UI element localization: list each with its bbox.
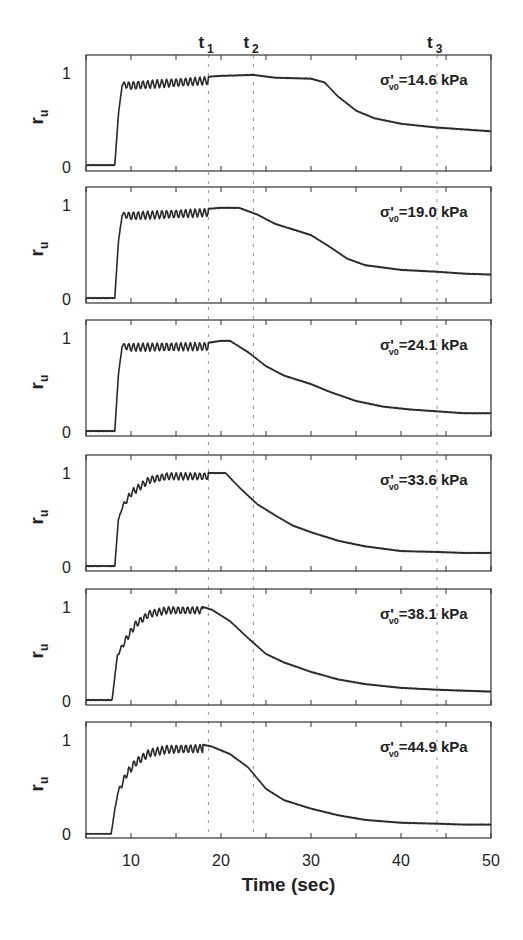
x-tick-label: 30 <box>302 852 320 869</box>
chart-svg: t1t2t3 10ruσ'v0=14.6 kPa10ruσ'v0=19.0 kP… <box>0 0 523 940</box>
y-axis-label: ru <box>26 644 51 659</box>
x-tick-label: 50 <box>482 852 500 869</box>
panel-6: 10ruσ'v0=44.9 kPa <box>26 722 491 843</box>
panel-3: 10ruσ'v0=24.1 kPa <box>26 320 491 441</box>
y-tick-label-1: 1 <box>62 465 71 482</box>
y-tick-label-0: 0 <box>62 291 71 308</box>
figure: t1t2t3 10ruσ'v0=14.6 kPa10ruσ'v0=19.0 kP… <box>0 0 523 940</box>
stress-annotation: σ'v0=24.1 kPa <box>380 336 468 357</box>
y-tick-label-1: 1 <box>62 65 71 82</box>
x-axis: 1020304050Time (sec) <box>122 852 500 895</box>
y-tick-label-0: 0 <box>62 559 71 576</box>
stress-annotation: σ'v0=44.9 kPa <box>380 738 468 759</box>
y-tick-label-1: 1 <box>62 330 71 347</box>
marker-label-t1: t1 <box>198 33 214 56</box>
x-tick-label: 40 <box>392 852 410 869</box>
y-tick-label-1: 1 <box>62 732 71 749</box>
x-tick-label: 20 <box>212 852 230 869</box>
y-axis-label: ru <box>26 375 51 390</box>
y-tick-label-0: 0 <box>62 159 71 176</box>
stress-annotation: σ'v0=33.6 kPa <box>380 471 468 492</box>
y-tick-label-0: 0 <box>62 424 71 441</box>
ru-curve <box>86 75 491 166</box>
panel-2: 10ruσ'v0=19.0 kPa <box>26 187 491 308</box>
stress-annotation: σ'v0=38.1 kPa <box>380 605 468 626</box>
marker-label-t2: t2 <box>243 33 259 56</box>
y-tick-label-0: 0 <box>62 693 71 710</box>
x-tick-label: 10 <box>122 852 140 869</box>
stress-annotation: σ'v0=19.0 kPa <box>380 203 468 224</box>
y-tick-label-0: 0 <box>62 826 71 843</box>
y-axis-label: ru <box>26 510 51 525</box>
y-tick-label-1: 1 <box>62 599 71 616</box>
stress-annotation: σ'v0=14.6 kPa <box>380 71 468 92</box>
y-axis-label: ru <box>26 242 51 257</box>
panels: 10ruσ'v0=14.6 kPa10ruσ'v0=19.0 kPa10ruσ'… <box>26 55 491 843</box>
ru-curve <box>86 207 491 298</box>
panel-4: 10ruσ'v0=33.6 kPa <box>26 455 491 576</box>
marker-label-t3: t3 <box>427 33 443 56</box>
ru-curve <box>86 745 491 835</box>
x-axis-label: Time (sec) <box>242 874 336 895</box>
y-tick-label-1: 1 <box>62 197 71 214</box>
y-axis-label: ru <box>26 110 51 125</box>
y-axis-label: ru <box>26 777 51 792</box>
ru-curve <box>86 340 491 431</box>
panel-5: 10ruσ'v0=38.1 kPa <box>26 589 491 710</box>
panel-1: 10ruσ'v0=14.6 kPa <box>26 55 491 176</box>
